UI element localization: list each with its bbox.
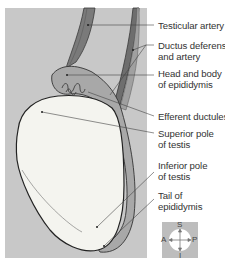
label-tail-epididymis: Tail of epididymis: [158, 190, 202, 212]
compass-anterior: A: [161, 236, 166, 244]
label-ductus-deferens: Ductus deferens and artery: [158, 40, 225, 62]
compass-inferior: I: [179, 252, 181, 260]
label-head-body-epididymis: Head and body of epididymis: [158, 68, 222, 90]
label-testicular-artery: Testicular artery: [158, 20, 224, 31]
orientation-compass: S I A P: [162, 222, 198, 258]
label-efferent-ductules: Efferent ductules: [158, 111, 225, 122]
compass-posterior: P: [192, 236, 197, 244]
label-inferior-pole: Inferior pole of testis: [158, 160, 207, 182]
compass-superior: S: [177, 221, 182, 229]
label-superior-pole: Superior pole of testis: [158, 128, 214, 150]
